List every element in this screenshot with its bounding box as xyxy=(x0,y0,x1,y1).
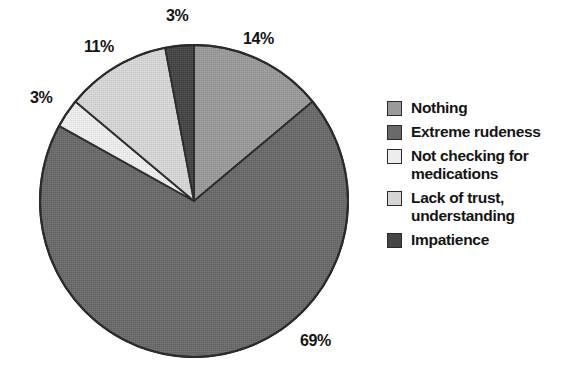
chart-legend: Nothing Extreme rudeness Not checking fo… xyxy=(387,99,573,255)
slice-label-not-checking: 3% xyxy=(30,89,52,107)
legend-swatch-icon xyxy=(387,233,402,248)
slice-label-lack-of-trust: 11% xyxy=(84,38,114,56)
legend-swatch-icon xyxy=(387,191,402,206)
slice-label-extreme-rudeness: 69% xyxy=(300,332,331,350)
pie-svg xyxy=(39,44,349,358)
pie-texture-overlay xyxy=(40,45,348,357)
legend-item-not-checking: Not checking for medications xyxy=(387,147,573,183)
slice-label-nothing: 14% xyxy=(243,30,274,48)
legend-item-label: Lack of trust, understanding xyxy=(411,189,573,225)
legend-item-lack-of-trust: Lack of trust, understanding xyxy=(387,189,573,225)
pie-chart-graphic xyxy=(39,44,349,358)
legend-item-label: Nothing xyxy=(411,99,467,117)
legend-swatch-icon xyxy=(387,101,402,116)
slice-label-impatience: 3% xyxy=(166,7,188,25)
legend-swatch-icon xyxy=(387,125,402,140)
legend-item-nothing: Nothing xyxy=(387,99,573,117)
legend-item-label: Impatience xyxy=(411,231,489,249)
legend-item-label: Extreme rudeness xyxy=(411,123,541,141)
pie-chart-figure: 14% 3% 11% 3% 69% Nothing Extreme rudene… xyxy=(0,0,581,386)
legend-item-extreme-rudeness: Extreme rudeness xyxy=(387,123,573,141)
legend-item-label: Not checking for medications xyxy=(411,147,573,183)
legend-item-impatience: Impatience xyxy=(387,231,573,249)
legend-swatch-icon xyxy=(387,149,402,164)
